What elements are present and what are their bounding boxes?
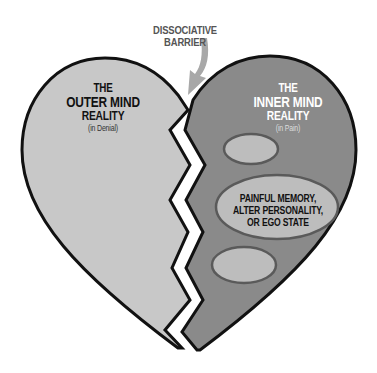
ellipse-label-line3: OR EGO STATE [227,216,329,228]
outer-mind-title: OUTER MIND [66,95,140,110]
inner-mind-reality: REALITY [247,110,329,123]
barrier-label: DISSOCIATIVE BARRIER [140,24,230,48]
inner-mind-subtitle: (in Pain) [247,123,329,133]
inner-mind-label: THE INNER MIND REALITY (in Pain) [247,82,329,133]
barrier-label-line2: BARRIER [140,36,230,48]
outer-mind-subtitle: (in Denial) [66,123,140,133]
ellipse-label-line2: ALTER PERSONALITY, [227,204,329,216]
outer-mind-label: THE OUTER MIND REALITY (in Denial) [66,82,140,133]
heart-graphic [0,0,377,373]
painful-memory-label: PAINFUL MEMORY, ALTER PERSONALITY, OR EG… [227,192,329,228]
outer-mind-reality: REALITY [66,110,140,123]
ellipse-top-small [224,134,278,164]
ellipse-label-line1: PAINFUL MEMORY, [227,192,329,204]
ellipse-bottom-small [212,247,276,283]
split-heart-diagram: DISSOCIATIVE BARRIER THE OUTER MIND REAL… [0,0,377,373]
inner-mind-title: INNER MIND [247,95,329,110]
barrier-label-line1: DISSOCIATIVE [140,24,230,36]
